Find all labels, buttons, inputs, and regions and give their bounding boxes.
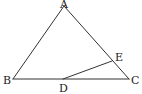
segment-de (63, 61, 112, 79)
triangle-diagram: A B C D E (0, 0, 142, 94)
segment-ac (64, 6, 129, 79)
label-d: D (59, 82, 68, 94)
label-e: E (115, 51, 123, 64)
label-b: B (3, 74, 11, 87)
segment-ab (13, 6, 64, 79)
label-a: A (59, 0, 69, 11)
label-c: C (131, 74, 139, 87)
